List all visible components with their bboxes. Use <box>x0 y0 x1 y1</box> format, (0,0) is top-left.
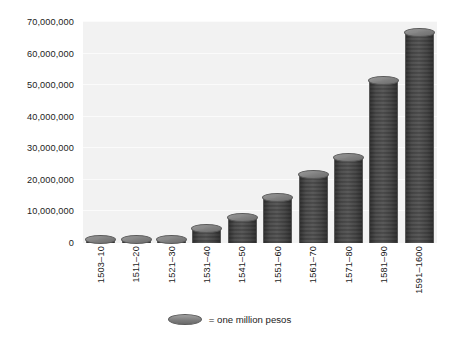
coin-highlight <box>338 155 347 158</box>
coin-highlight <box>126 237 135 240</box>
bar-coin-stack <box>263 193 292 244</box>
coin-stack-body <box>263 198 292 244</box>
x-axis-tick-label: 1531–40 <box>202 246 212 283</box>
x-axis-tick-label: 1561–70 <box>308 246 318 283</box>
coin-highlight <box>267 195 276 198</box>
coin-highlight <box>232 215 241 218</box>
coin-stack-top <box>333 153 364 162</box>
coin-stack-body <box>334 158 363 243</box>
coin-stack-body <box>405 33 434 243</box>
coin-highlight <box>196 226 205 229</box>
bars-layer <box>83 22 437 243</box>
x-axis-tick-label: 1541–50 <box>237 246 247 283</box>
bar-coin-stack <box>192 224 221 243</box>
bar-coin-stack <box>228 213 257 243</box>
coin-highlight <box>90 237 99 240</box>
coin-stack-top <box>262 193 293 202</box>
y-axis-tick-label: 60,000,000 <box>27 49 74 59</box>
chart-legend: = one million pesos <box>0 314 459 325</box>
x-axis-tick-label: 1581–90 <box>379 246 389 283</box>
x-axis-tick-label: 1521–30 <box>167 246 177 283</box>
bar-coin-stack <box>334 153 363 243</box>
coin-stack-top <box>227 213 258 222</box>
y-axis-tick-label: 40,000,000 <box>27 112 74 122</box>
bar-coin-stack <box>299 170 328 243</box>
y-axis-tick-label: 50,000,000 <box>27 80 74 90</box>
coin-stack-top <box>368 76 399 85</box>
coin-highlight <box>373 78 382 81</box>
coin-highlight <box>161 237 170 240</box>
x-axis-tick-label: 1511–20 <box>131 246 141 283</box>
coin-highlight <box>303 172 312 175</box>
bar-coin-stack <box>369 76 398 243</box>
bar-coin-stack <box>122 235 151 243</box>
coin-stack-top <box>121 235 152 244</box>
coin-stack-top <box>85 235 116 244</box>
bar-coin-stack <box>157 237 186 243</box>
y-axis-tick-label: 70,000,000 <box>27 17 74 27</box>
x-axis-tick-label: 1591–1600 <box>414 246 424 294</box>
coin-icon <box>168 314 202 325</box>
y-axis-tick-label: 30,000,000 <box>27 143 74 153</box>
x-axis-tick-label: 1503–10 <box>96 246 106 283</box>
coin-stack-body <box>299 175 328 243</box>
x-axis: 1503–101511–201521–301531–401541–501551–… <box>83 246 437 308</box>
bar-coin-stack <box>405 28 434 243</box>
coin-stack-body <box>369 81 398 243</box>
coin-highlight <box>409 30 418 33</box>
chart-figure: 010,000,00020,000,00030,000,00040,000,00… <box>0 0 459 341</box>
y-axis-tick-label: 20,000,000 <box>27 175 74 185</box>
coin-stack-top <box>156 235 187 244</box>
legend-label: = one million pesos <box>209 314 291 325</box>
x-axis-tick-label: 1571–80 <box>344 246 354 283</box>
bar-coin-stack <box>86 235 115 243</box>
y-axis: 010,000,00020,000,00030,000,00040,000,00… <box>0 0 78 341</box>
plot-area <box>83 22 437 243</box>
y-axis-tick-label: 10,000,000 <box>27 206 74 216</box>
x-axis-tick-label: 1551–60 <box>273 246 283 283</box>
y-axis-tick-label: 0 <box>69 238 74 248</box>
